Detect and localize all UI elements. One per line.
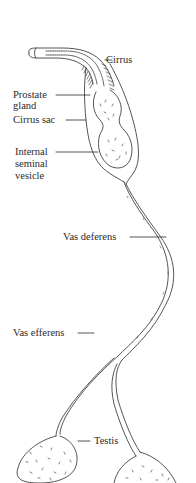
cirrus-shape — [29, 48, 114, 86]
leader-lines — [56, 60, 166, 441]
label-vas-deferens: Vas deferens — [63, 231, 116, 242]
vas-deferens-shape — [118, 182, 174, 360]
reproductive-system-diagram: Cirrus Prostate gland Cirrus sac Interna… — [0, 0, 196, 483]
label-internal-seminal-vesicle-line3: vesicle — [15, 170, 44, 181]
left-testis-shape — [17, 436, 77, 483]
label-cirrus: Cirrus — [106, 54, 132, 65]
label-vas-efferens: Vas efferens — [13, 327, 64, 338]
internal-seminal-vesicle-shape — [93, 90, 132, 168]
label-prostate-gland-line2: gland — [13, 100, 36, 111]
label-cirrus-sac: Cirrus sac — [13, 114, 55, 125]
label-internal-seminal-vesicle-line1: Internal — [15, 146, 48, 157]
label-prostate-gland-line1: Prostate — [13, 89, 47, 100]
right-testis-shape — [114, 452, 176, 483]
label-testis: Testis — [94, 435, 118, 446]
label-internal-seminal-vesicle-line2: seminal — [15, 158, 48, 169]
